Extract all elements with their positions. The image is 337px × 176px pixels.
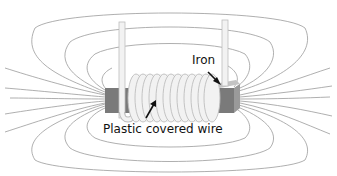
coil bbox=[128, 74, 220, 122]
wire-label: Plastic covered wire bbox=[103, 122, 223, 136]
electromagnet-diagram bbox=[0, 0, 337, 176]
iron-label: Iron bbox=[192, 53, 215, 67]
